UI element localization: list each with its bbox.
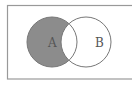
universe-rectangle	[8, 6, 133, 80]
set-b-label: B	[95, 36, 104, 50]
set-a-label: A	[47, 36, 57, 50]
venn-diagram: A B	[0, 0, 132, 85]
